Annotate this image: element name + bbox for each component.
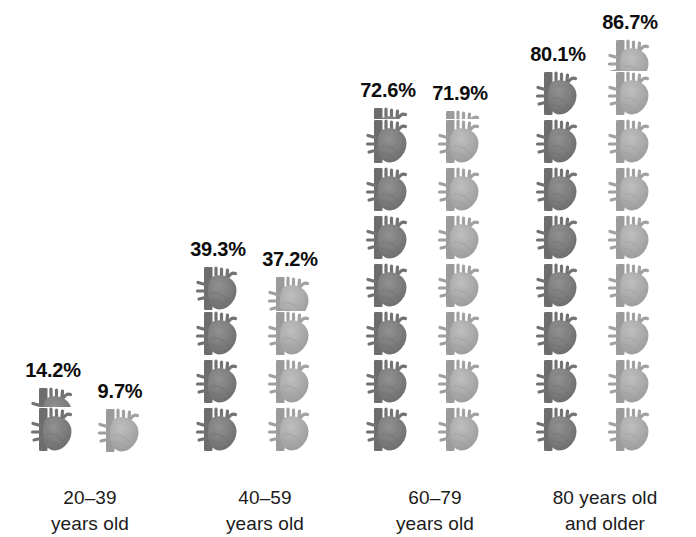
value-label: 37.2% (262, 248, 318, 271)
heart-unit-partial (195, 266, 241, 311)
heart-unit (535, 167, 581, 215)
heart-unit (607, 263, 653, 311)
heart-unit (535, 407, 581, 455)
heart-unit (535, 119, 581, 167)
heart-unit (607, 71, 653, 119)
heart-icon (607, 311, 653, 356)
category-label-line1: 40–59 (238, 487, 291, 508)
heart-icon (535, 119, 581, 164)
heart-icon (607, 359, 653, 404)
heart-icon (535, 263, 581, 308)
heart-unit (365, 119, 411, 167)
icon-stack (30, 387, 76, 455)
icon-stack (97, 408, 143, 455)
heart-unit (30, 407, 76, 455)
heart-icon (365, 359, 411, 404)
age-group-1: 20–39years old14.2%9.7% (10, 0, 170, 537)
category-label: 80 years oldand older (505, 485, 696, 537)
heart-icon (195, 311, 241, 356)
value-label: 71.9% (432, 82, 488, 105)
heart-icon (97, 408, 143, 453)
value-label: 80.1% (530, 43, 586, 66)
heart-icon (607, 39, 653, 71)
heart-icon (30, 407, 76, 452)
heart-unit (437, 215, 483, 263)
heart-icon (365, 167, 411, 212)
heart-icon (535, 311, 581, 356)
pictogram-chart: 20–39years old14.2%9.7%40–59years old39.… (0, 0, 696, 537)
heart-icon (607, 407, 653, 452)
heart-icon (535, 71, 581, 116)
icon-stack (437, 110, 483, 455)
heart-unit (365, 359, 411, 407)
heart-icon (30, 387, 76, 407)
heart-icon (437, 311, 483, 356)
heart-icon (535, 167, 581, 212)
heart-icon (365, 263, 411, 308)
heart-icon (195, 407, 241, 452)
icon-stack (267, 276, 313, 455)
heart-unit (437, 311, 483, 359)
heart-unit (607, 167, 653, 215)
icon-stack (607, 39, 653, 455)
heart-unit (437, 359, 483, 407)
heart-icon (365, 215, 411, 260)
heart-unit-partial (30, 387, 76, 407)
heart-icon (437, 215, 483, 260)
heart-unit (437, 407, 483, 455)
value-label: 72.6% (360, 79, 416, 102)
heart-icon (365, 407, 411, 452)
value-label: 86.7% (602, 11, 658, 34)
age-group-2: 40–59years old39.3%37.2% (185, 0, 345, 537)
heart-unit (195, 359, 241, 407)
heart-unit (535, 263, 581, 311)
heart-unit-partial (437, 110, 483, 119)
heart-icon (267, 407, 313, 452)
category-label: 20–39years old (0, 485, 190, 537)
heart-icon (535, 359, 581, 404)
heart-icon (607, 215, 653, 260)
heart-icon (535, 407, 581, 452)
heart-unit (437, 167, 483, 215)
value-label: 9.7% (98, 380, 143, 403)
heart-unit (365, 311, 411, 359)
heart-unit (267, 407, 313, 455)
heart-icon (195, 359, 241, 404)
heart-unit (437, 263, 483, 311)
heart-unit-partial (365, 107, 411, 119)
heart-unit (607, 407, 653, 455)
heart-unit (607, 119, 653, 167)
heart-unit (365, 263, 411, 311)
heart-icon (365, 119, 411, 164)
heart-unit (535, 311, 581, 359)
heart-icon (607, 263, 653, 308)
heart-unit (267, 359, 313, 407)
heart-unit (267, 311, 313, 359)
heart-unit (437, 119, 483, 167)
heart-icon (365, 107, 411, 119)
category-label-line1: 80 years old (553, 487, 658, 508)
category-label-line2: years old (0, 511, 190, 537)
heart-icon (437, 407, 483, 452)
heart-unit-partial (267, 276, 313, 311)
age-group-3: 60–79years old72.6%71.9% (355, 0, 515, 537)
heart-unit (607, 359, 653, 407)
heart-unit (607, 215, 653, 263)
icon-stack (195, 266, 241, 455)
heart-icon (535, 215, 581, 260)
heart-icon (437, 359, 483, 404)
heart-icon (437, 119, 483, 164)
heart-unit (607, 311, 653, 359)
heart-icon (267, 276, 313, 311)
heart-unit (195, 311, 241, 359)
heart-unit (535, 71, 581, 119)
heart-unit-partial (97, 408, 143, 455)
heart-icon (195, 266, 241, 311)
value-label: 14.2% (25, 359, 81, 382)
heart-unit (535, 215, 581, 263)
heart-unit (365, 215, 411, 263)
icon-stack (535, 71, 581, 455)
heart-icon (267, 311, 313, 356)
heart-unit (535, 359, 581, 407)
heart-unit (195, 407, 241, 455)
